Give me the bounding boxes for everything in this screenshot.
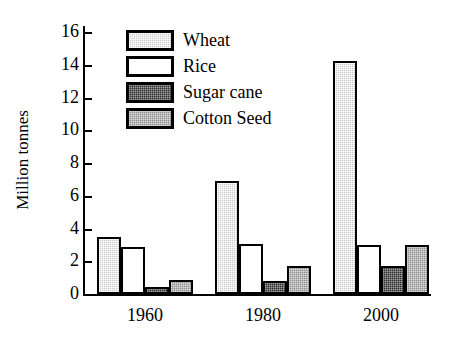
y-axis-tick: 8 xyxy=(85,163,92,165)
y-axis-tick-label: 6 xyxy=(49,185,79,205)
y-axis-tick: 10 xyxy=(85,130,92,132)
legend-item-rice: Rice xyxy=(126,54,272,79)
legend-item-cotton-seed: Cotton Seed xyxy=(126,106,272,131)
y-axis-tick-label: 4 xyxy=(49,218,79,238)
legend-swatch-icon xyxy=(126,30,174,51)
x-axis-label-2000: 2000 xyxy=(363,304,399,326)
y-axis-tick: 12 xyxy=(85,98,92,100)
x-axis-label-1980: 1980 xyxy=(245,304,281,326)
bar-cotton-seed-2000 xyxy=(405,245,429,294)
y-axis-tick: 2 xyxy=(85,261,92,263)
y-axis-tick-label: 14 xyxy=(49,54,79,74)
bar-sugar-cane-1980 xyxy=(263,281,287,294)
y-axis-tick-label: 2 xyxy=(49,250,79,270)
legend-label: Wheat xyxy=(183,30,230,51)
y-axis-tick-label: 0 xyxy=(49,283,79,303)
legend-label: Cotton Seed xyxy=(183,108,272,129)
bar-rice-1980 xyxy=(239,244,263,294)
legend-swatch-icon xyxy=(126,56,174,77)
legend-item-wheat: Wheat xyxy=(126,28,272,53)
bar-rice-2000 xyxy=(357,245,381,294)
bar-wheat-1960 xyxy=(97,237,121,294)
bar-chart: Million tonnes 0246810121416 19601980200… xyxy=(0,0,452,352)
y-axis-title: Million tonnes xyxy=(13,75,33,245)
y-axis-tick: 14 xyxy=(85,65,92,67)
bar-rice-1960 xyxy=(121,247,145,294)
legend-label: Rice xyxy=(183,56,216,77)
x-axis-label-1960: 1960 xyxy=(127,304,163,326)
bar-wheat-2000 xyxy=(333,61,357,294)
y-axis-tick: 6 xyxy=(85,196,92,198)
y-axis-tick-label: 16 xyxy=(49,21,79,41)
y-axis-tick: 4 xyxy=(85,229,92,231)
y-axis-tick: 0 xyxy=(85,294,92,296)
legend-item-sugar-cane: Sugar cane xyxy=(126,80,272,105)
bar-sugar-cane-1960 xyxy=(145,287,169,294)
bar-wheat-1980 xyxy=(215,181,239,294)
y-axis-tick: 16 xyxy=(85,32,92,34)
x-axis-line xyxy=(83,294,431,296)
y-axis-tick-label: 8 xyxy=(49,152,79,172)
y-axis-tick-label: 10 xyxy=(49,119,79,139)
y-axis-tick-label: 12 xyxy=(49,87,79,107)
legend: WheatRiceSugar caneCotton Seed xyxy=(126,28,272,132)
bar-cotton-seed-1960 xyxy=(169,280,193,294)
legend-swatch-icon xyxy=(126,108,174,129)
legend-swatch-icon xyxy=(126,82,174,103)
bar-cotton-seed-1980 xyxy=(287,266,311,294)
legend-label: Sugar cane xyxy=(183,82,262,103)
bar-sugar-cane-2000 xyxy=(381,266,405,294)
